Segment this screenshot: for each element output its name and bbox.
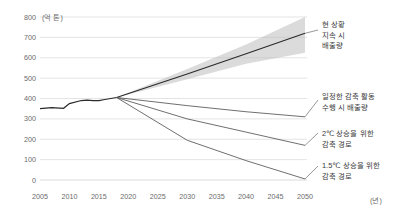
- x-axis-tick-label: 2045: [268, 192, 284, 201]
- y-axis-unit-label: (억 톤): [42, 13, 63, 22]
- series-line: [117, 97, 305, 178]
- y-axis-ticks: 8007006005004003002001000: [24, 13, 36, 185]
- y-axis-tick-label: 300: [24, 114, 36, 123]
- y-axis-tick-label: 0: [32, 176, 36, 185]
- annotation-labels: 현 상황지속 시배출량일정한 감축 활동수행 시 배출량2℃ 상승을 위한감축 …: [322, 20, 380, 181]
- annotation-one-point-five-degree: 1.5℃ 상승을 위한감축 경로: [322, 161, 380, 181]
- chart-svg: 8007006005004003002001000 (억 톤) 20052010…: [0, 0, 405, 216]
- x-axis-tick-label: 2040: [238, 192, 254, 201]
- x-axis-tick-label: 2020: [120, 192, 136, 201]
- series-line: [117, 97, 305, 145]
- y-axis-tick-label: 200: [24, 135, 36, 144]
- y-axis-tick-label: 800: [24, 13, 36, 22]
- series-line: [40, 97, 117, 108]
- annotation-bau: 현 상황지속 시배출량: [322, 20, 345, 50]
- x-axis-tick-label: 2050: [297, 192, 313, 201]
- x-axis-tick-label: 2035: [209, 192, 225, 201]
- x-axis-tick-label: 2005: [32, 192, 48, 201]
- x-axis-tick-label: 2015: [91, 192, 107, 201]
- annotation-leaders: [305, 30, 318, 179]
- bau-uncertainty-band: [117, 17, 305, 97]
- y-axis-tick-label: 100: [24, 155, 36, 164]
- annotation-leader: [305, 166, 318, 179]
- annotation-leader: [305, 100, 318, 117]
- annotation-two-degree: 2℃ 상승을 위한감축 경로: [322, 129, 374, 149]
- annotation-leader: [305, 30, 318, 33]
- bau-uncertainty-cone: [117, 17, 305, 97]
- series-line: [117, 33, 305, 97]
- y-axis-tick-label: 400: [24, 94, 36, 103]
- emissions-scenario-chart: 8007006005004003002001000 (억 톤) 20052010…: [0, 0, 405, 216]
- series-line: [117, 97, 305, 116]
- y-axis-tick-label: 600: [24, 53, 36, 62]
- x-axis-ticks: 2005201020152020202520302035204020452050: [32, 192, 313, 201]
- x-axis-tick-label: 2010: [61, 192, 77, 201]
- x-axis-unit-label: (년): [370, 196, 382, 205]
- x-axis-tick-label: 2025: [150, 192, 166, 201]
- annotation-steady-reduction: 일정한 감축 활동수행 시 배출량: [322, 92, 375, 112]
- y-axis-tick-label: 500: [24, 74, 36, 83]
- x-axis-tick-label: 2030: [179, 192, 195, 201]
- y-axis-tick-label: 700: [24, 33, 36, 42]
